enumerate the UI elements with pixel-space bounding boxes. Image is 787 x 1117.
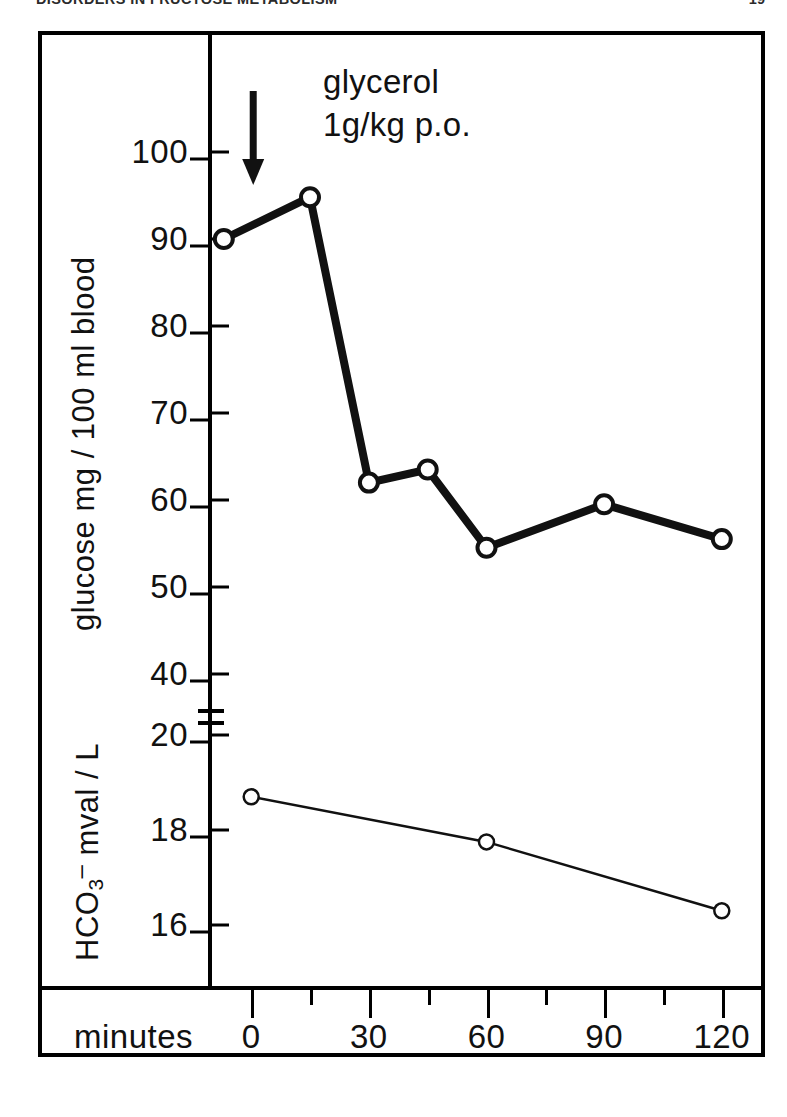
y-tick-glucose-40-dash (190, 680, 210, 683)
x-tick-label-120: 120 (694, 1018, 751, 1056)
x-axis-strip: minutes 0306090120 (38, 990, 765, 1053)
series-glucose-point-15 (301, 188, 319, 206)
x-axis-title: minutes (74, 1018, 193, 1056)
series-hco3-point-120 (714, 903, 729, 918)
y-tick-hco3-16: 16 (96, 906, 188, 944)
y-tick-glucose-90: 90 (96, 220, 188, 258)
x-tick-90 (604, 990, 607, 1018)
series-glucose-point-120 (713, 530, 731, 548)
x-tick-minor-75 (545, 990, 548, 1005)
y-tick-glucose-70-dash (190, 419, 210, 422)
y-tick-hco3-16-dash (190, 931, 210, 934)
x-tick-120 (722, 990, 725, 1018)
x-tick-label-60: 60 (468, 1018, 506, 1056)
series-hco3 (244, 789, 730, 918)
y-tick-hco3-20-dash (190, 741, 210, 744)
series-hco3-line (251, 797, 722, 911)
series-glucose-point-30 (360, 474, 378, 492)
x-tick-label-30: 30 (350, 1018, 388, 1056)
x-tick-minor-105 (663, 990, 666, 1005)
y-tick-glucose-90-dash (190, 245, 210, 248)
x-tick-label-90: 90 (585, 1018, 623, 1056)
y-tick-hco3-20: 20 (96, 716, 188, 754)
y-tick-glucose-100: 100 (96, 133, 188, 171)
y-tick-hco3-18-dash (190, 836, 210, 839)
y-tick-hco3-18: 18 (96, 811, 188, 849)
down-arrow-icon (242, 91, 264, 185)
running-head-title: DISORDERS IN FRUCTOSE METABOLISM (36, 0, 337, 7)
x-tick-30 (369, 990, 372, 1018)
series-glucose-point-90 (595, 495, 613, 513)
y-axis-tick-labels: 100908070605040201816 (96, 31, 188, 988)
x-tick-label-0: 0 (242, 1018, 261, 1056)
x-tick-minor-45 (428, 990, 431, 1005)
page-number: 19 (749, 0, 765, 7)
y-tick-glucose-80: 80 (96, 307, 188, 345)
y-tick-glucose-60-dash (190, 506, 210, 509)
series-hco3-point-0 (244, 789, 259, 804)
figure-panel: glucose mg / 100 ml blood HCO3– mval / L… (38, 31, 765, 1057)
series-hco3-point-60 (479, 834, 494, 849)
series-glucose (215, 188, 731, 557)
series-glucose-point-60 (478, 539, 496, 557)
chart-svg (212, 31, 761, 986)
y-tick-glucose-80-dash (190, 332, 210, 335)
x-tick-60 (487, 990, 490, 1018)
y-tick-glucose-50-dash (190, 593, 210, 596)
y-tick-glucose-50: 50 (96, 568, 188, 606)
hco3-superscript-minus: – (66, 865, 93, 879)
series-glucose-line (224, 197, 722, 548)
y-tick-glucose-60: 60 (96, 481, 188, 519)
y-tick-glucose-100-dash (190, 158, 210, 161)
series-glucose-point-45 (419, 461, 437, 479)
arrow-head (242, 159, 264, 185)
y-tick-glucose-70: 70 (96, 394, 188, 432)
x-tick-minor-15 (310, 990, 313, 1005)
x-tick-0 (251, 990, 254, 1018)
y-tick-glucose-40: 40 (96, 655, 188, 693)
running-head: DISORDERS IN FRUCTOSE METABOLISM 19 (0, 0, 787, 14)
series-glucose-point--7 (215, 230, 233, 248)
plot-area (212, 31, 761, 986)
